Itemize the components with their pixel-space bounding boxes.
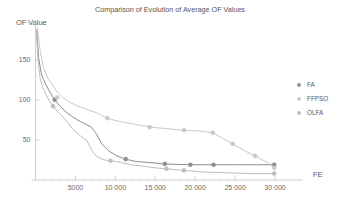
- data-point-olfa: [51, 104, 55, 108]
- x-axis-tick-label: 10 000: [105, 184, 127, 191]
- data-point-ffpso: [231, 142, 235, 146]
- data-point-ffpso: [105, 116, 109, 120]
- data-point-ffpso: [55, 95, 59, 99]
- legend-label-fa: FA: [307, 81, 316, 88]
- x-axis-tick-label: 5000: [68, 184, 84, 191]
- y-axis-tick-label: 150: [19, 56, 31, 63]
- data-point-olfa: [272, 171, 276, 175]
- y-axis-tick-label: 50: [23, 136, 31, 143]
- data-point-ffpso: [182, 128, 186, 132]
- data-point-fa: [188, 163, 192, 167]
- legend-label-olfa: OLFA: [307, 109, 324, 116]
- data-point-fa: [211, 163, 215, 167]
- x-axis-tick-label: 20 000: [184, 184, 206, 191]
- y-axis-tick-label: 100: [19, 96, 31, 103]
- data-point-olfa: [182, 168, 186, 172]
- x-axis-tick-label: 25 000: [224, 184, 246, 191]
- data-point-ffpso: [253, 154, 257, 158]
- chart-title: Comparison of Evolution of Average OF Va…: [95, 5, 245, 14]
- x-axis-label: FE: [313, 170, 323, 179]
- legend-marker-ffpso: [297, 97, 301, 101]
- y-axis-label: OF Value: [16, 18, 47, 27]
- chart-container: Comparison of Evolution of Average OF Va…: [0, 0, 340, 203]
- data-point-ffpso: [148, 125, 152, 129]
- legend-marker-olfa: [297, 111, 301, 115]
- legend-label-ffpso: FFPSO: [307, 95, 328, 102]
- data-point-ffpso: [211, 131, 215, 135]
- data-point-fa: [124, 157, 128, 161]
- data-point-ffpso: [272, 166, 276, 170]
- average-of-values-line-chart: Comparison of Evolution of Average OF Va…: [0, 0, 340, 203]
- series-line-ffpso: [38, 28, 275, 168]
- data-point-fa: [163, 162, 167, 166]
- data-point-olfa: [164, 167, 168, 171]
- x-axis-tick-label: 15 000: [145, 184, 167, 191]
- legend-marker-fa: [297, 83, 301, 87]
- x-axis-tick-label: 30 000: [264, 184, 286, 191]
- data-point-olfa: [108, 159, 112, 163]
- series-line-fa: [37, 30, 275, 165]
